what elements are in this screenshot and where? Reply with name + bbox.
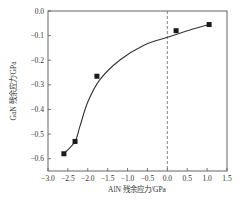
- y-tick-label: −0.5: [30, 130, 44, 139]
- data-point-marker: [94, 74, 99, 79]
- x-tick-label: −2.0: [81, 174, 95, 183]
- x-tick-label: −1.5: [101, 174, 115, 183]
- data-points: [61, 22, 211, 156]
- y-tick-label: 0.0: [35, 7, 45, 16]
- x-tick-label: −3.0: [41, 174, 55, 183]
- plot-frame: [48, 11, 227, 171]
- x-tick-label: 0.0: [163, 174, 173, 183]
- x-tick-label: 1.0: [202, 174, 212, 183]
- y-tick-label: −0.2: [30, 56, 44, 65]
- fit-curve: [64, 25, 209, 154]
- x-tick-label: −1.0: [121, 174, 135, 183]
- data-point-marker: [207, 22, 212, 27]
- data-point-marker: [174, 28, 179, 33]
- data-point-marker: [61, 151, 66, 156]
- data-point-marker: [73, 139, 78, 144]
- x-tick-label: −0.5: [141, 174, 155, 183]
- x-tick-label: 0.5: [183, 174, 193, 183]
- y-tick-label: −0.1: [30, 31, 44, 40]
- x-axis-label: AlN 残余应力/GPa: [108, 184, 166, 194]
- stress-chart: −3.0−2.5−2.0−1.5−1.0−0.50.00.51.01.5 0.0…: [0, 0, 240, 201]
- y-tick-label: −0.6: [30, 154, 44, 163]
- y-axis-label: GaN 残余应力/GPa: [8, 61, 18, 121]
- x-tick-label: −2.5: [61, 174, 75, 183]
- y-tick-label: −0.4: [30, 105, 44, 114]
- x-tick-label: 1.5: [222, 174, 232, 183]
- x-axis-ticks: −3.0−2.5−2.0−1.5−1.0−0.50.00.51.01.5: [41, 168, 232, 183]
- y-tick-label: −0.3: [30, 80, 44, 89]
